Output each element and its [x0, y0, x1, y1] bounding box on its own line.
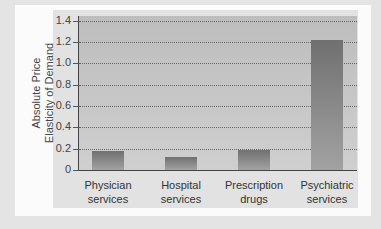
x-tick-label-line: Psychiatric [287, 178, 367, 192]
y-tick-label: 1.2 [52, 36, 71, 47]
x-tick-label: Physicianservices [68, 178, 148, 206]
y-tick-label: 0.8 [52, 79, 71, 90]
bar-physician-services [92, 151, 124, 170]
y-tick [73, 21, 79, 22]
x-tick-label: Psychiatricservices [287, 178, 367, 206]
gridline [79, 21, 357, 22]
bar-hospital-services [165, 157, 197, 170]
x-tick-label-line: Physician [68, 178, 148, 192]
y-tick [73, 42, 79, 43]
x-tick-label-line: drugs [214, 192, 294, 206]
y-axis [78, 16, 79, 171]
x-tick-label: Hospitalservices [141, 178, 221, 206]
y-tick-label: 0 [52, 164, 71, 175]
x-tick-label-line: services [287, 192, 367, 206]
x-tick-label-line: Prescription [214, 178, 294, 192]
y-tick [73, 106, 79, 107]
y-tick-label: 0.4 [52, 121, 71, 132]
x-tick-label: Prescriptiondrugs [214, 178, 294, 206]
y-tick-label: 1.0 [52, 57, 71, 68]
bar-prescription-drugs [238, 150, 270, 170]
x-tick-label-line: services [141, 192, 221, 206]
y-tick [73, 149, 79, 150]
x-axis [78, 170, 357, 171]
y-tick [73, 127, 79, 128]
x-tick-label-line: services [68, 192, 148, 206]
y-tick [73, 170, 79, 171]
bar-psychiatric-services [311, 40, 343, 170]
y-tick-label: 0.6 [52, 100, 71, 111]
y-tick-label: 0.2 [52, 143, 71, 154]
y-tick-label: 1.4 [52, 15, 71, 26]
y-tick [73, 63, 79, 64]
x-tick-label-line: Hospital [141, 178, 221, 192]
y-tick [73, 85, 79, 86]
